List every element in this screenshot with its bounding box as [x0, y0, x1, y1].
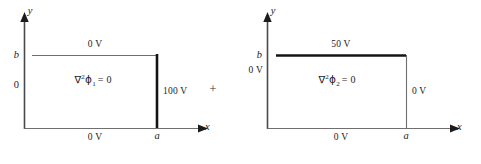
right-left-boundary-label: 0 V: [249, 66, 263, 76]
superposition-plus-icon: +: [209, 82, 216, 95]
right-nabla-symbol: ∇: [318, 74, 325, 85]
diagram-canvas: [0, 0, 481, 164]
left-y-axis-label: y: [28, 6, 33, 17]
right-y-tick-b: b: [257, 50, 262, 61]
left-y-tick-0: 0: [14, 80, 19, 91]
left-bottom-boundary-label: 0 V: [88, 133, 102, 143]
left-phi-subscript: 1: [92, 80, 96, 88]
right-bottom-boundary-label: 0 V: [334, 133, 348, 143]
left-top-boundary-label: 0 V: [88, 40, 102, 50]
left-laplace-equation: ∇2ϕ1= 0: [74, 74, 111, 88]
right-y-axis-label: y: [271, 6, 276, 17]
left-phi-symbol: ϕ: [85, 73, 92, 85]
panel-left-graphics: [20, 12, 208, 132]
left-y-tick-b: b: [14, 50, 19, 61]
left-x-tick-a: a: [154, 131, 159, 142]
left-right-boundary-label: 100 V: [163, 87, 187, 97]
right-top-boundary-label: 50 V: [331, 40, 350, 50]
right-phi-symbol: ϕ: [329, 73, 336, 85]
right-x-tick-a: a: [403, 131, 408, 142]
panel-right-graphics: [263, 12, 460, 132]
right-right-boundary-label: 0 V: [412, 87, 426, 97]
left-nabla-symbol: ∇: [74, 74, 81, 85]
figure-root: y x b 0 a 0 V 0 V 100 V ∇2ϕ1= 0 + y x b …: [0, 0, 481, 164]
right-x-axis-label: x: [457, 122, 462, 133]
right-laplace-equation: ∇2ϕ2= 0: [318, 74, 355, 88]
right-phi-subscript: 2: [336, 80, 340, 88]
left-equation-rhs: = 0: [98, 74, 112, 85]
right-equation-rhs: = 0: [342, 74, 356, 85]
left-x-axis-label: x: [205, 122, 210, 133]
